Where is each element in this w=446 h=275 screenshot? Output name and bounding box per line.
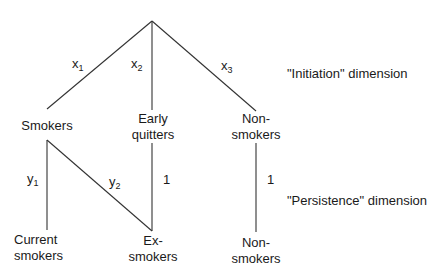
node-ex-smokers-line1: Ex- (125, 233, 181, 249)
node-current-smokers-line2: smokers (14, 248, 74, 264)
node-current-smokers-line1: Current (14, 232, 74, 248)
node-non-smokers-level2: Non- smokers (229, 235, 283, 267)
node-ex-smokers: Ex- smokers (125, 233, 181, 265)
node-non-smokers-level1-line2: smokers (229, 127, 283, 143)
edge-label-y2: y2 (109, 175, 121, 193)
node-smokers: Smokers (20, 118, 74, 134)
node-early-quitters-line2: quitters (126, 127, 180, 143)
edge-label-y1: y1 (27, 172, 39, 190)
node-non-smokers-level2-line1: Non- (229, 235, 283, 251)
edge-label-x2: x2 (131, 57, 143, 75)
edge-label-early-to-ex: 1 (163, 173, 170, 187)
edge-label-x1: x1 (72, 57, 84, 75)
node-non-smokers-level2-line2: smokers (229, 251, 283, 267)
persistence-dimension-label: "Persistence" dimension (287, 193, 427, 209)
edge-root-non-smokers (152, 21, 256, 111)
edge-label-x3: x3 (221, 59, 233, 77)
node-non-smokers-level1-line1: Non- (229, 111, 283, 127)
initiation-dimension-label: "Initiation" dimension (287, 66, 408, 82)
node-early-quitters: Early quitters (126, 111, 180, 143)
node-non-smokers-level1: Non- smokers (229, 111, 283, 143)
node-current-smokers: Current smokers (14, 232, 74, 264)
node-ex-smokers-line2: smokers (125, 249, 181, 265)
edge-smokers-ex-smokers (47, 140, 152, 231)
node-early-quitters-line1: Early (126, 111, 180, 127)
edge-label-non-to-non: 1 (267, 173, 274, 187)
